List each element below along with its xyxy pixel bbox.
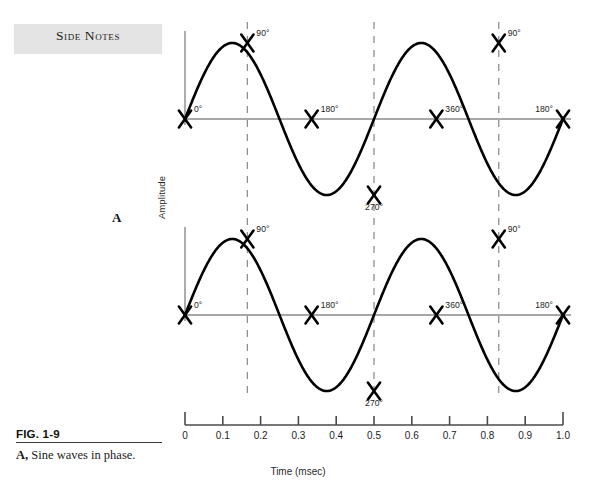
- phase-label: 270°: [365, 398, 383, 408]
- phase-marker: [368, 383, 380, 400]
- x-axis-ruler: 00.10.20.30.40.50.60.70.80.91.0: [182, 412, 570, 441]
- phase-label: 180°: [535, 300, 553, 310]
- phase-label: 90°: [256, 28, 269, 38]
- phase-label: 0°: [194, 300, 202, 310]
- phase-label: 90°: [508, 28, 521, 38]
- x-tick-label: 0.3: [291, 430, 305, 441]
- phase-label: 90°: [256, 224, 269, 234]
- phase-label: 0°: [194, 104, 202, 114]
- phase-label: 270°: [365, 202, 383, 212]
- x-tick-label: 0.5: [367, 430, 381, 441]
- x-tick-label: 0.7: [443, 430, 457, 441]
- phase-marker: [368, 187, 380, 204]
- x-tick-label: 0: [182, 430, 188, 441]
- phase-label: 360°: [445, 300, 463, 310]
- phase-label: 90°: [508, 224, 521, 234]
- phase-label: 180°: [535, 104, 553, 114]
- x-tick-label: 1.0: [556, 430, 570, 441]
- phase-label: 360°: [445, 104, 463, 114]
- phase-label: 180°: [321, 300, 339, 310]
- x-tick-label: 0.4: [329, 430, 343, 441]
- x-tick-label: 0.6: [405, 430, 419, 441]
- x-tick-label: 0.1: [216, 430, 230, 441]
- x-tick-label: 0.9: [518, 430, 532, 441]
- axes-group: [185, 31, 571, 321]
- x-tick-label: 0.8: [480, 430, 494, 441]
- x-tick-label: 0.2: [254, 430, 268, 441]
- sine-wave-figure: 0°90°180°270°360°90°180°0°90°180°270°360…: [0, 0, 596, 498]
- phase-label: 180°: [321, 104, 339, 114]
